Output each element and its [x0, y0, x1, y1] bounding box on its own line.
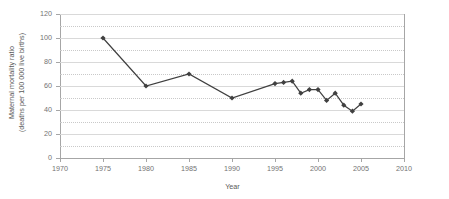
x-tick-label: 2010 — [384, 165, 424, 173]
x-tick-label: 1980 — [126, 165, 166, 173]
y-tick-mark — [56, 62, 60, 63]
x-axis-title: Year — [60, 182, 405, 191]
gridline-major — [60, 14, 404, 15]
y-tick-mark — [56, 134, 60, 135]
maternal-mortality-line-chart: Maternal mortality ratio (deaths per 100… — [0, 0, 449, 199]
gridline-major — [60, 62, 404, 63]
gridline-minor — [60, 98, 404, 99]
y-axis-title-line1: Maternal mortality ratio — [8, 33, 18, 132]
gridline-minor — [60, 74, 404, 75]
gridline-minor — [60, 50, 404, 51]
y-tick-label: 120 — [26, 10, 52, 18]
y-tick-label: 40 — [26, 106, 52, 114]
y-tick-label: 20 — [26, 130, 52, 138]
x-tick-mark — [146, 158, 147, 162]
gridline-minor — [60, 146, 404, 147]
x-tick-mark — [189, 158, 190, 162]
gridline-major — [60, 38, 404, 39]
y-tick-mark — [56, 14, 60, 15]
x-tick-mark — [318, 158, 319, 162]
y-tick-label: 100 — [26, 34, 52, 42]
x-tick-label: 2000 — [298, 165, 338, 173]
x-tick-mark — [404, 158, 405, 162]
y-tick-mark — [56, 38, 60, 39]
x-tick-mark — [232, 158, 233, 162]
y-tick-label: 80 — [26, 58, 52, 66]
x-tick-label: 1985 — [169, 165, 209, 173]
gridline-minor — [60, 26, 404, 27]
gridline-major — [60, 110, 404, 111]
x-tick-label: 1975 — [83, 165, 123, 173]
y-tick-label: 60 — [26, 82, 52, 90]
x-tick-mark — [60, 158, 61, 162]
gridline-minor — [60, 122, 404, 123]
x-tick-label: 1990 — [212, 165, 252, 173]
y-tick-label: 0 — [26, 154, 52, 162]
x-tick-label: 1970 — [40, 165, 80, 173]
gridline-major — [60, 134, 404, 135]
gridline-major — [60, 86, 404, 87]
x-tick-mark — [103, 158, 104, 162]
y-tick-mark — [56, 110, 60, 111]
x-tick-label: 2005 — [341, 165, 381, 173]
x-tick-mark — [361, 158, 362, 162]
x-tick-mark — [275, 158, 276, 162]
x-tick-label: 1995 — [255, 165, 295, 173]
y-tick-mark — [56, 86, 60, 87]
